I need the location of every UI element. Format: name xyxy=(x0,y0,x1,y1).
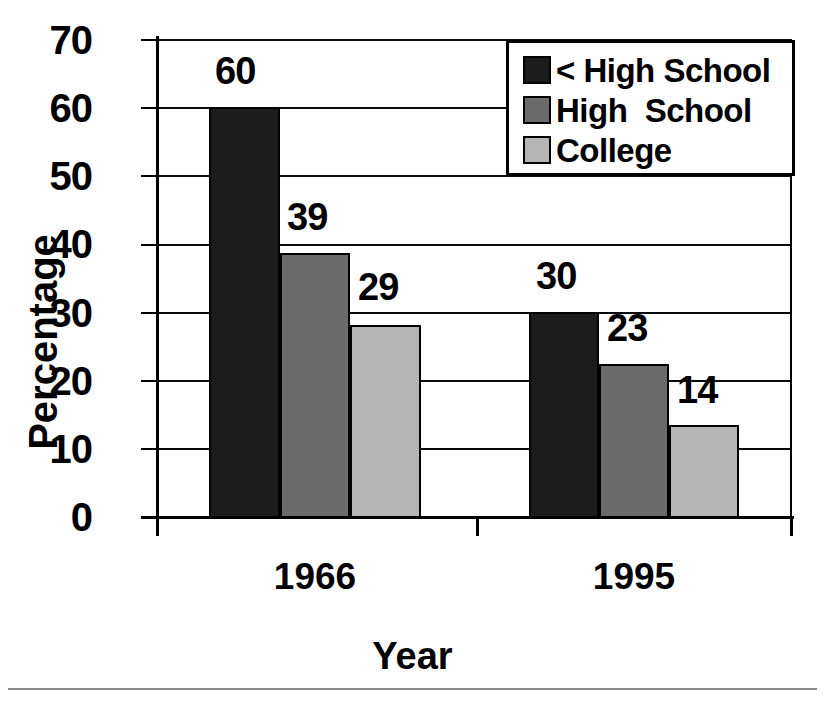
legend: < High School High School College xyxy=(506,40,795,176)
legend-label-less-than-high-school: < High School xyxy=(556,54,770,87)
bar-1966-high-school xyxy=(280,253,350,519)
y-axis-title: Percentage xyxy=(23,202,63,482)
data-label-1995-high-school: 23 xyxy=(607,309,647,347)
bar-1995-less-than-high-school xyxy=(529,312,599,519)
data-label-1995-less-than-high-school: 30 xyxy=(536,257,576,295)
legend-swatch-icon-high-school xyxy=(523,96,551,124)
legend-label-high-school: High School xyxy=(556,94,752,127)
data-label-1966-college: 29 xyxy=(358,268,398,306)
legend-swatch-icon-college xyxy=(523,136,551,164)
y-tick-label-70: 70 xyxy=(0,20,92,60)
y-axis-line xyxy=(156,36,159,528)
x-category-label-1966: 1966 xyxy=(215,558,415,595)
data-label-1995-college: 14 xyxy=(677,371,717,409)
legend-item-high-school: High School xyxy=(523,90,792,130)
legend-label-college: College xyxy=(556,134,672,167)
legend-item-less-than-high-school: < High School xyxy=(523,50,792,90)
x-axis-title: Year xyxy=(0,637,825,675)
data-label-1966-less-than-high-school: 60 xyxy=(215,52,255,90)
bar-1966-less-than-high-school xyxy=(209,107,280,519)
x-category-label-1995: 1995 xyxy=(534,558,734,595)
y-tick-label-60: 60 xyxy=(0,88,92,128)
data-label-1966-high-school: 39 xyxy=(287,198,327,236)
bar-1995-college xyxy=(669,425,739,519)
x-tick-mark-start xyxy=(156,519,159,536)
x-tick-mark-middle xyxy=(476,519,479,536)
page-divider-rule xyxy=(8,688,817,690)
y-tick-label-50: 50 xyxy=(0,156,92,196)
x-tick-mark-end xyxy=(790,519,793,536)
bar-1995-high-school xyxy=(599,364,669,519)
y-tick-label-0: 0 xyxy=(0,497,92,537)
legend-swatch-icon-less-than-high-school xyxy=(523,56,551,84)
bar-chart: 70 60 50 40 30 20 10 0 60 39 29 30 23 14… xyxy=(0,0,825,715)
bar-1966-college xyxy=(350,325,421,519)
x-axis-line xyxy=(141,516,794,519)
legend-item-college: College xyxy=(523,130,792,170)
